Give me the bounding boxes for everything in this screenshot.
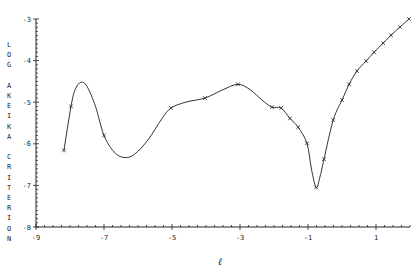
svg-text:-1: -1 bbox=[304, 234, 312, 242]
x-marker bbox=[169, 106, 173, 110]
x-marker bbox=[398, 25, 402, 29]
svg-text:I: I bbox=[7, 112, 11, 120]
x-axis-label: ℓ bbox=[218, 256, 222, 267]
svg-text:O: O bbox=[7, 51, 11, 59]
y-tick-labels: -3-4-5-6-7-8 bbox=[23, 16, 31, 232]
svg-text:I: I bbox=[7, 214, 11, 222]
svg-text:-3: -3 bbox=[23, 16, 31, 24]
axes bbox=[33, 19, 410, 230]
svg-text:C: C bbox=[7, 153, 11, 161]
svg-text:K: K bbox=[7, 123, 12, 131]
x-marker bbox=[407, 17, 411, 21]
svg-text:-6: -6 bbox=[23, 140, 31, 148]
x-marker bbox=[364, 59, 368, 63]
x-marker bbox=[347, 83, 351, 87]
svg-text:E: E bbox=[7, 194, 11, 202]
svg-text:R: R bbox=[7, 163, 12, 171]
x-marker bbox=[355, 69, 359, 73]
svg-text:R: R bbox=[7, 204, 12, 212]
svg-text:-3: -3 bbox=[236, 234, 244, 242]
x-marker bbox=[296, 125, 300, 129]
svg-text:G: G bbox=[7, 61, 11, 69]
svg-text:N: N bbox=[7, 235, 11, 243]
chart: -3-4-5-6-7-8 -9-7-5-3-11 LOGAKEIKACRITER… bbox=[0, 0, 419, 272]
svg-text:L: L bbox=[7, 41, 11, 49]
svg-text:T: T bbox=[7, 184, 12, 192]
svg-text:I: I bbox=[7, 174, 11, 182]
svg-text:-7: -7 bbox=[23, 182, 31, 190]
svg-text:K: K bbox=[7, 92, 12, 100]
svg-text:-4: -4 bbox=[23, 57, 31, 65]
svg-text:-7: -7 bbox=[100, 234, 108, 242]
svg-text:-9: -9 bbox=[32, 234, 40, 242]
svg-text:A: A bbox=[7, 82, 12, 90]
x-marker bbox=[340, 98, 344, 102]
svg-text:A: A bbox=[7, 133, 12, 141]
svg-text:O: O bbox=[7, 225, 11, 233]
svg-text:1: 1 bbox=[374, 234, 378, 242]
data-curve bbox=[64, 19, 409, 188]
svg-text:-5: -5 bbox=[23, 99, 31, 107]
svg-text:-5: -5 bbox=[168, 234, 176, 242]
y-axis-label: LOGAKEIKACRITERION bbox=[7, 41, 12, 243]
svg-text:E: E bbox=[7, 102, 11, 110]
x-tick-labels: -9-7-5-3-11 bbox=[32, 234, 378, 242]
x-marker bbox=[288, 117, 292, 121]
x-marker bbox=[389, 33, 393, 37]
x-marker bbox=[381, 41, 385, 45]
x-marker bbox=[372, 50, 376, 54]
svg-text:-8: -8 bbox=[23, 224, 31, 232]
data-markers bbox=[62, 17, 411, 189]
